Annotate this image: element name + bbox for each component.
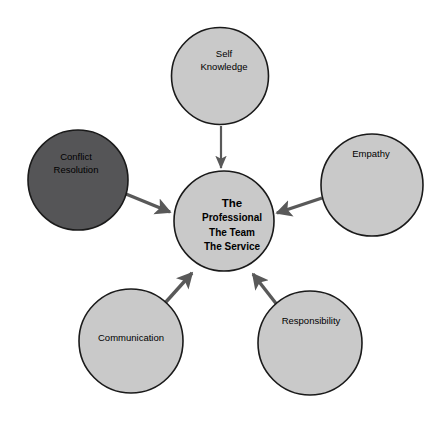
node-responsibility[interactable]: Responsibility [258,291,362,395]
node-label-communication: Communication [98,332,164,343]
center-node-layer: TheProfessionalThe TeamThe Service [174,171,274,271]
node-center-professional-team-service[interactable]: TheProfessionalThe TeamThe Service [174,171,274,271]
node-label-line: Empathy [352,148,390,159]
node-label-line: Responsibility [282,315,341,326]
arrow-communication-to-center [165,273,192,303]
node-label-responsibility: Responsibility [282,315,341,326]
node-self-knowledge[interactable]: SelfKnowledge [172,28,269,125]
node-empathy[interactable]: Empathy [321,134,423,236]
node-label-line: Knowledge [200,61,247,72]
center-label-line: Professional [202,212,262,223]
center-label-line: The Service [204,241,261,252]
node-communication[interactable]: Communication [79,289,183,393]
node-label-line: Self [216,48,233,59]
concept-map-canvas: SelfKnowledgeConflictResolutionEmpathyCo… [0,0,443,430]
node-label-line: Resolution [54,164,99,175]
arrow-responsibility-to-center [253,274,278,306]
arrow-empathy-to-center [277,198,322,213]
arrow-conflict-resolution-to-center [126,194,170,212]
node-label-empathy: Empathy [352,148,390,159]
node-circle-responsibility [258,291,362,395]
node-circle-conflict-resolution [28,130,128,230]
node-label-line: Communication [98,332,164,343]
node-conflict-resolution[interactable]: ConflictResolution [28,130,128,230]
node-label-line: Conflict [60,151,92,162]
center-label-line: The [222,197,242,209]
center-label-line: The Team [209,227,255,238]
concept-map-diagram: SelfKnowledgeConflictResolutionEmpathyCo… [0,0,443,430]
node-circle-self-knowledge [172,28,269,125]
